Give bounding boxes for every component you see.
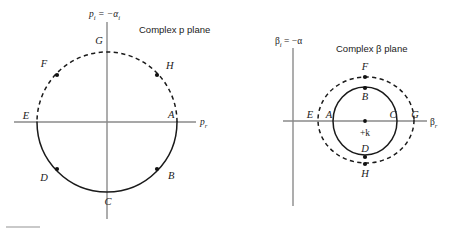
beta-plane-label-C: C — [389, 109, 397, 120]
figure-root: A B C D E F G H pi = −αi pr Complex p pl… — [0, 0, 449, 232]
p-plane-label-B: B — [168, 170, 175, 181]
beta-plane-vaxis-eq: = −α — [282, 36, 302, 46]
p-plane-vertical-axis-label: pi = −αi — [88, 9, 120, 21]
p-plane-dot-B — [155, 167, 159, 171]
p-plane-label-C: C — [104, 196, 112, 207]
panel-p-plane: A B C D E F G H pi = −αi pr Complex p pl… — [14, 9, 210, 219]
beta-plane-label-D: D — [360, 143, 369, 154]
beta-plane-dot-H — [363, 162, 367, 166]
beta-plane-label-G: G — [411, 109, 419, 120]
p-plane-label-E: E — [22, 110, 30, 121]
p-plane-horizontal-axis-label: pr — [199, 117, 208, 129]
beta-plane-label-E: E — [306, 109, 314, 120]
p-plane-label-H: H — [165, 60, 175, 71]
beta-plane-dot-F — [363, 75, 367, 79]
beta-plane-origin-dot — [363, 119, 367, 123]
p-plane-title: Complex p plane — [139, 24, 210, 35]
beta-plane-vertical-axis-label: βi = −α — [275, 36, 302, 48]
complex-plane-diagram: A B C D E F G H pi = −αi pr Complex p pl… — [0, 0, 449, 232]
beta-plane-label-F: F — [361, 61, 369, 72]
p-plane-label-F: F — [40, 58, 48, 69]
p-plane-dot-D — [55, 167, 59, 171]
p-plane-vaxis-eq: = −α — [96, 9, 120, 19]
panel-beta-plane: A B C D E F G H +k βi = −α βr Complex β … — [275, 36, 438, 206]
beta-plane-horizontal-axis-label: βr — [430, 117, 438, 129]
p-plane-dot-F — [55, 73, 59, 77]
bottom-divider — [6, 226, 40, 228]
p-plane-label-G: G — [95, 35, 103, 46]
beta-plane-label-H: H — [360, 168, 370, 179]
p-plane-haxis-sub: r — [205, 122, 208, 129]
p-plane-vaxis-eq-sub: i — [118, 14, 120, 21]
p-plane-label-A: A — [167, 109, 175, 120]
beta-plane-origin-label: +k — [360, 128, 370, 138]
p-plane-label-D: D — [39, 172, 48, 183]
beta-plane-label-A: A — [325, 109, 333, 120]
beta-plane-label-B: B — [362, 91, 369, 102]
beta-plane-origin-text: +k — [360, 128, 370, 138]
beta-plane-dot-B — [363, 86, 367, 90]
beta-plane-dot-D — [363, 155, 367, 159]
beta-plane-haxis-sub: r — [435, 122, 438, 129]
p-plane-dot-H — [155, 73, 159, 77]
beta-plane-title: Complex β plane — [336, 43, 407, 54]
